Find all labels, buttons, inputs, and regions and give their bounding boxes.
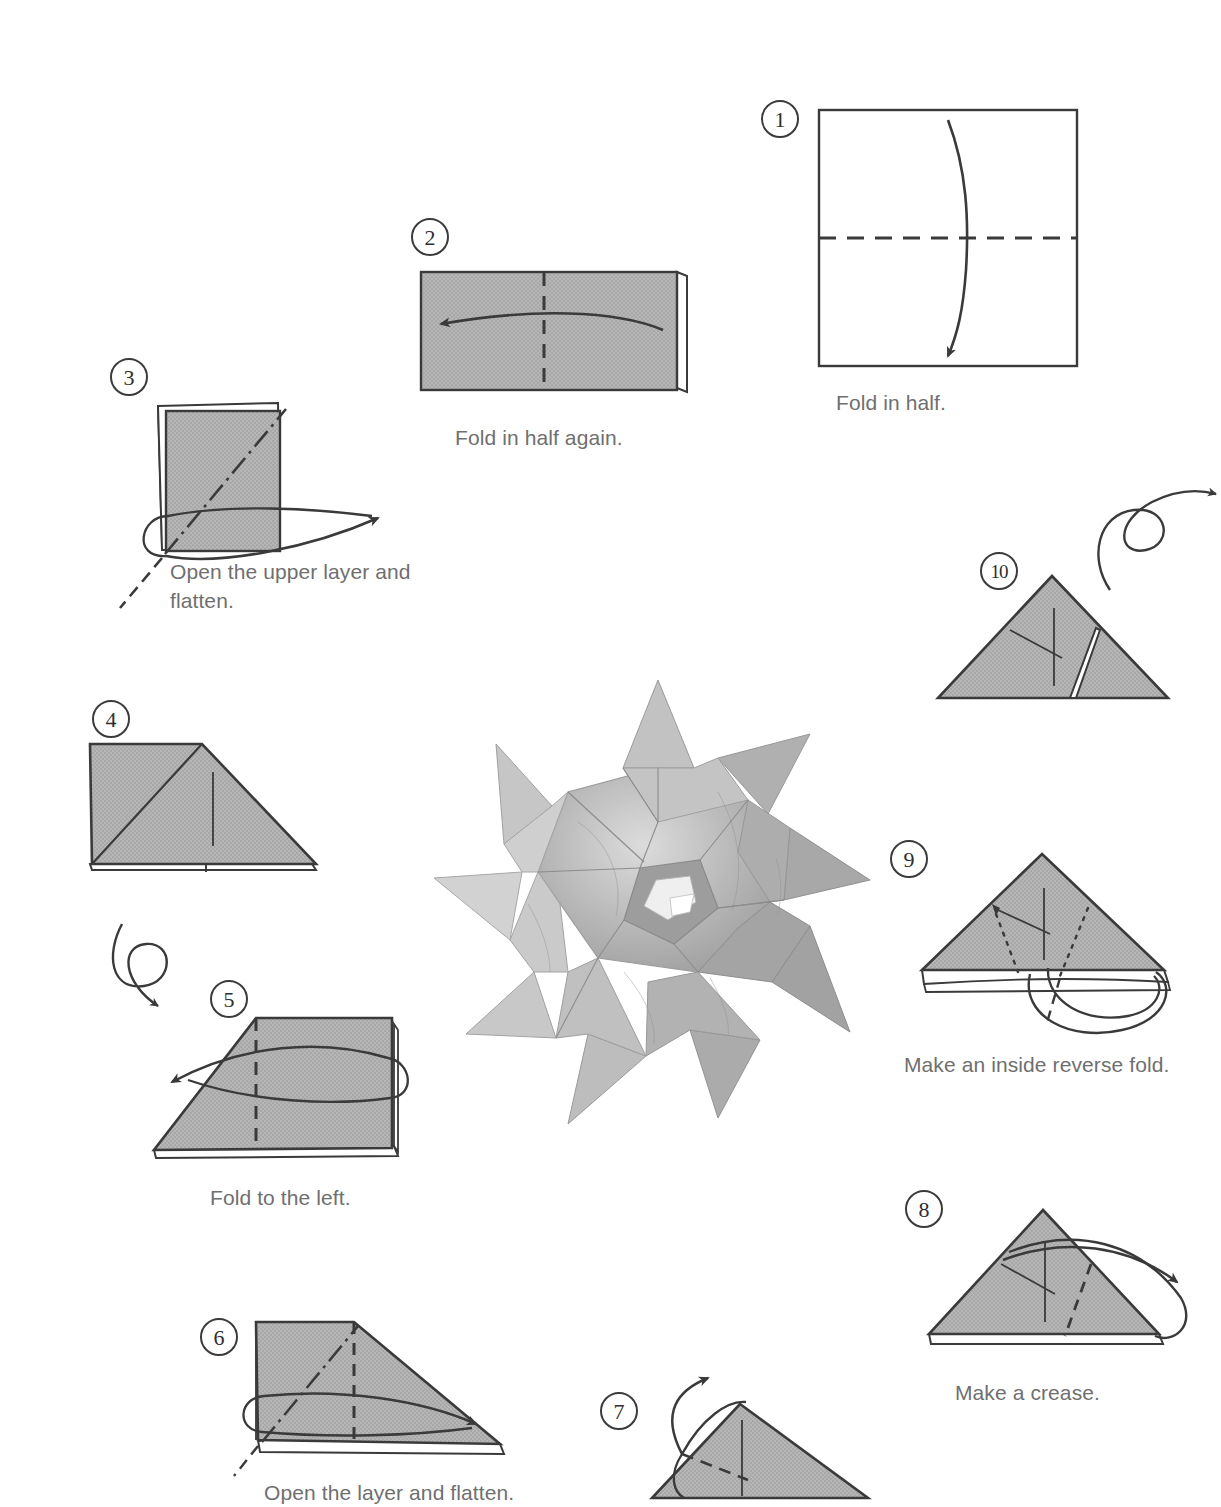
paper-triangle <box>938 576 1168 698</box>
paper-edge-layer <box>677 272 687 392</box>
step-4: 4 <box>92 700 362 890</box>
paper-shape <box>256 1322 500 1444</box>
step-5-figure <box>132 1010 422 1190</box>
step-2-figure <box>411 260 731 435</box>
step-8-figure <box>915 1202 1205 1362</box>
fold-line-extension <box>234 1446 258 1476</box>
paper-triangle <box>922 854 1164 970</box>
turn-over-loop <box>113 924 167 1006</box>
step-2-number: 2 <box>411 218 449 256</box>
fold-line-extension <box>120 558 162 608</box>
step-2: 2 Fold in half again. <box>411 218 731 458</box>
step-4-figure <box>80 736 350 876</box>
step-10: 10 <box>930 490 1210 720</box>
step-3-number: 3 <box>110 358 148 396</box>
step-10-figure <box>930 572 1200 712</box>
origami-star-illustration <box>418 672 898 1134</box>
step-1-figure <box>761 100 1101 390</box>
step-2-caption: Fold in half again. <box>455 423 755 452</box>
paper-side-edge <box>394 1024 398 1152</box>
step-6-number: 6 <box>200 1318 238 1356</box>
step-4-number: 4 <box>92 700 130 738</box>
paper-shape <box>90 744 316 864</box>
paper-square <box>166 411 280 551</box>
step-9-caption: Make an inside reverse fold. <box>904 1050 1221 1079</box>
paper-shape <box>154 1018 392 1150</box>
step-6: 6 Open the layer and flatten. <box>200 1318 560 1498</box>
step-7-figure <box>616 1392 906 1498</box>
step-9-figure <box>900 848 1200 1048</box>
paper-rectangle <box>421 272 677 390</box>
step-1-caption: Fold in half. <box>836 388 1136 417</box>
paper-layer-edge-2 <box>924 979 1170 992</box>
step-3-caption: Open the upper layer and flatten. <box>170 557 460 615</box>
step-1: 1 Fold in half. <box>761 100 1101 430</box>
step-9: 9 Make an inside reverse fold. <box>890 840 1200 1080</box>
step-8-caption: Make a crease. <box>955 1378 1221 1407</box>
step-3: 3 Open the upper layer and flatten. <box>110 358 440 628</box>
step-5: 5 Fold to the left. <box>100 920 440 1200</box>
step-8: 8 Make a crease. <box>905 1190 1205 1410</box>
step-6-caption: Open the layer and flatten. <box>264 1478 604 1507</box>
paper-triangle <box>929 1210 1159 1334</box>
finished-model-photo <box>418 672 898 1134</box>
step-6-figure <box>242 1318 572 1478</box>
step-5-caption: Fold to the left. <box>210 1183 510 1212</box>
step-7: 7 <box>600 1392 900 1502</box>
